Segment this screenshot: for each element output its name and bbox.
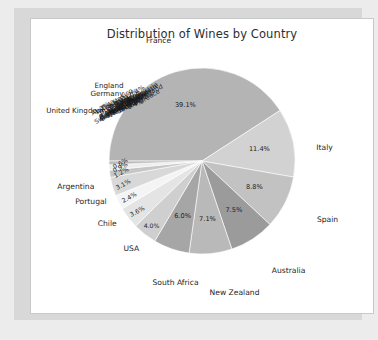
chart-title: Distribution of Wines by Country [31,27,373,41]
slice-label: Argentina [57,182,94,191]
slice-label: Portugal [75,197,106,206]
chart-screenshot: Distribution of Wines by Country 39.1%11… [0,0,378,340]
slice-label: New Zealand [210,288,260,297]
chart-canvas: Distribution of Wines by Country 39.1%11… [30,18,374,314]
slice-label: Italy [316,143,332,152]
slice-label: USA [124,244,140,253]
figure-frame: Distribution of Wines by Country 39.1%11… [14,8,362,320]
slice-label: France [146,36,171,45]
slice-label: Spain [317,214,338,223]
slice-label: South Africa [152,278,198,287]
slice-label: Australia [272,266,306,275]
slice-label: Chile [98,218,117,227]
